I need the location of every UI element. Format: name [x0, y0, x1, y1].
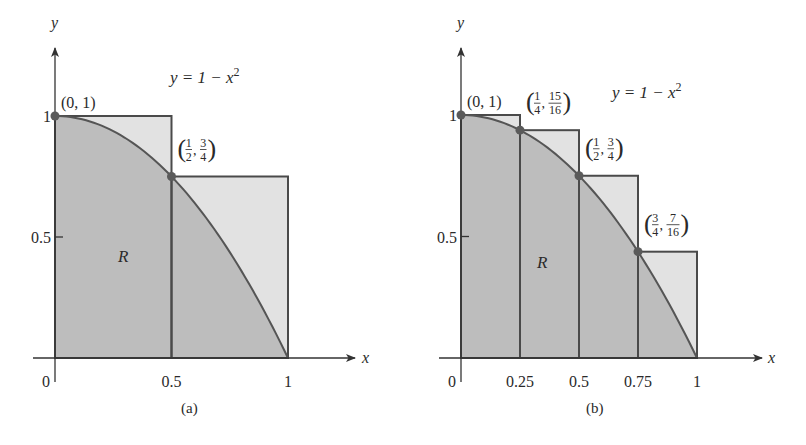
panel-b: y x y = 1 − x2 R (b) 0.5100.250.50.751 (… — [437, 14, 775, 417]
x-tick-label: 1 — [284, 373, 292, 390]
y-axis-label: y — [455, 14, 465, 32]
svg-text:): ) — [615, 133, 624, 162]
svg-text:15: 15 — [549, 89, 561, 103]
svg-text:7: 7 — [670, 211, 676, 225]
svg-text:2: 2 — [593, 149, 599, 163]
svg-text:16: 16 — [549, 103, 561, 117]
y-tick-label: 1 — [449, 107, 457, 124]
svg-text:,: , — [193, 143, 197, 158]
region-label: R — [117, 247, 129, 266]
svg-text:): ) — [563, 87, 572, 116]
data-point — [575, 171, 584, 180]
function-label: y = 1 − x2 — [168, 65, 240, 87]
point-label: (0, 1) — [467, 93, 502, 111]
caption: (b) — [586, 400, 604, 417]
svg-text:3: 3 — [608, 135, 614, 149]
y-axis-label: y — [49, 14, 59, 32]
x-tick-label: 0.75 — [624, 373, 652, 390]
y-tick-label: 1 — [43, 108, 51, 125]
svg-text:,: , — [660, 218, 664, 233]
svg-text:3: 3 — [200, 136, 206, 150]
region-label: R — [536, 253, 548, 272]
data-point — [167, 172, 176, 181]
svg-text:4: 4 — [652, 225, 658, 239]
point-label-fraction: (12,34) — [178, 134, 217, 164]
function-label: y = 1 − x2 — [610, 80, 682, 102]
x-axis-label: x — [361, 349, 369, 366]
data-point — [457, 111, 466, 120]
svg-text:): ) — [681, 209, 690, 238]
svg-text:3: 3 — [652, 211, 658, 225]
x-tick-label: 0.25 — [506, 373, 534, 390]
y-tick-label: 0.5 — [437, 229, 457, 246]
point-label: (0, 1) — [61, 94, 96, 112]
svg-text:,: , — [601, 142, 605, 157]
data-point — [51, 112, 60, 121]
data-point — [516, 126, 525, 135]
point-label-fraction: (34,716) — [644, 209, 689, 239]
x-tick-label: 0.5 — [162, 373, 182, 390]
svg-text:4: 4 — [608, 149, 614, 163]
x-tick-label: 0 — [42, 373, 50, 390]
point-label-fraction: (14,1516) — [526, 87, 571, 117]
y-tick-label: 0.5 — [31, 229, 51, 246]
svg-text:1: 1 — [186, 136, 192, 150]
point-label-fraction: (12,34) — [585, 133, 624, 163]
svg-text:1: 1 — [534, 89, 540, 103]
data-point — [634, 247, 643, 256]
svg-text:): ) — [208, 134, 217, 163]
svg-text:16: 16 — [667, 225, 679, 239]
x-axis-label: x — [767, 349, 775, 366]
svg-text:4: 4 — [534, 103, 540, 117]
svg-text:4: 4 — [200, 150, 206, 164]
caption: (a) — [181, 400, 198, 417]
svg-text:2: 2 — [186, 150, 192, 164]
x-tick-label: 1 — [693, 373, 701, 390]
svg-text:1: 1 — [593, 135, 599, 149]
panel-a: y x y = 1 − x2 R (a) 0.5100.51 (0, 1)(12… — [31, 14, 369, 417]
x-tick-label: 0 — [448, 373, 456, 390]
svg-text:,: , — [542, 96, 546, 111]
x-tick-label: 0.5 — [569, 373, 589, 390]
